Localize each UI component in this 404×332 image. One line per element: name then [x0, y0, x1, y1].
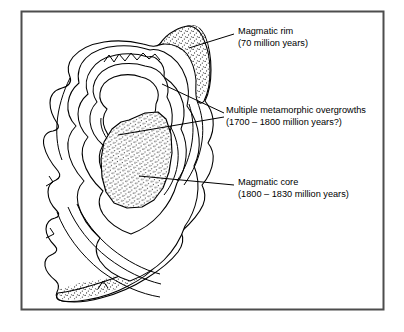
figure-root: Magmatic rim (70 million years) Multiple…: [0, 0, 404, 332]
label-overgrowths-line1: Multiple metamorphic overgrowths: [226, 105, 366, 115]
label-magmatic-core-line1: Magmatic core: [238, 177, 298, 187]
label-magmatic-rim-line1: Magmatic rim: [238, 26, 293, 36]
label-overgrowths-line2: (1700 – 1800 million years?): [226, 117, 342, 127]
label-magmatic-core-line2: (1800 – 1830 million years): [238, 189, 349, 199]
label-magmatic-rim-line2: (70 million years): [238, 38, 308, 48]
zircon-zoning-diagram: Magmatic rim (70 million years) Multiple…: [0, 0, 404, 332]
